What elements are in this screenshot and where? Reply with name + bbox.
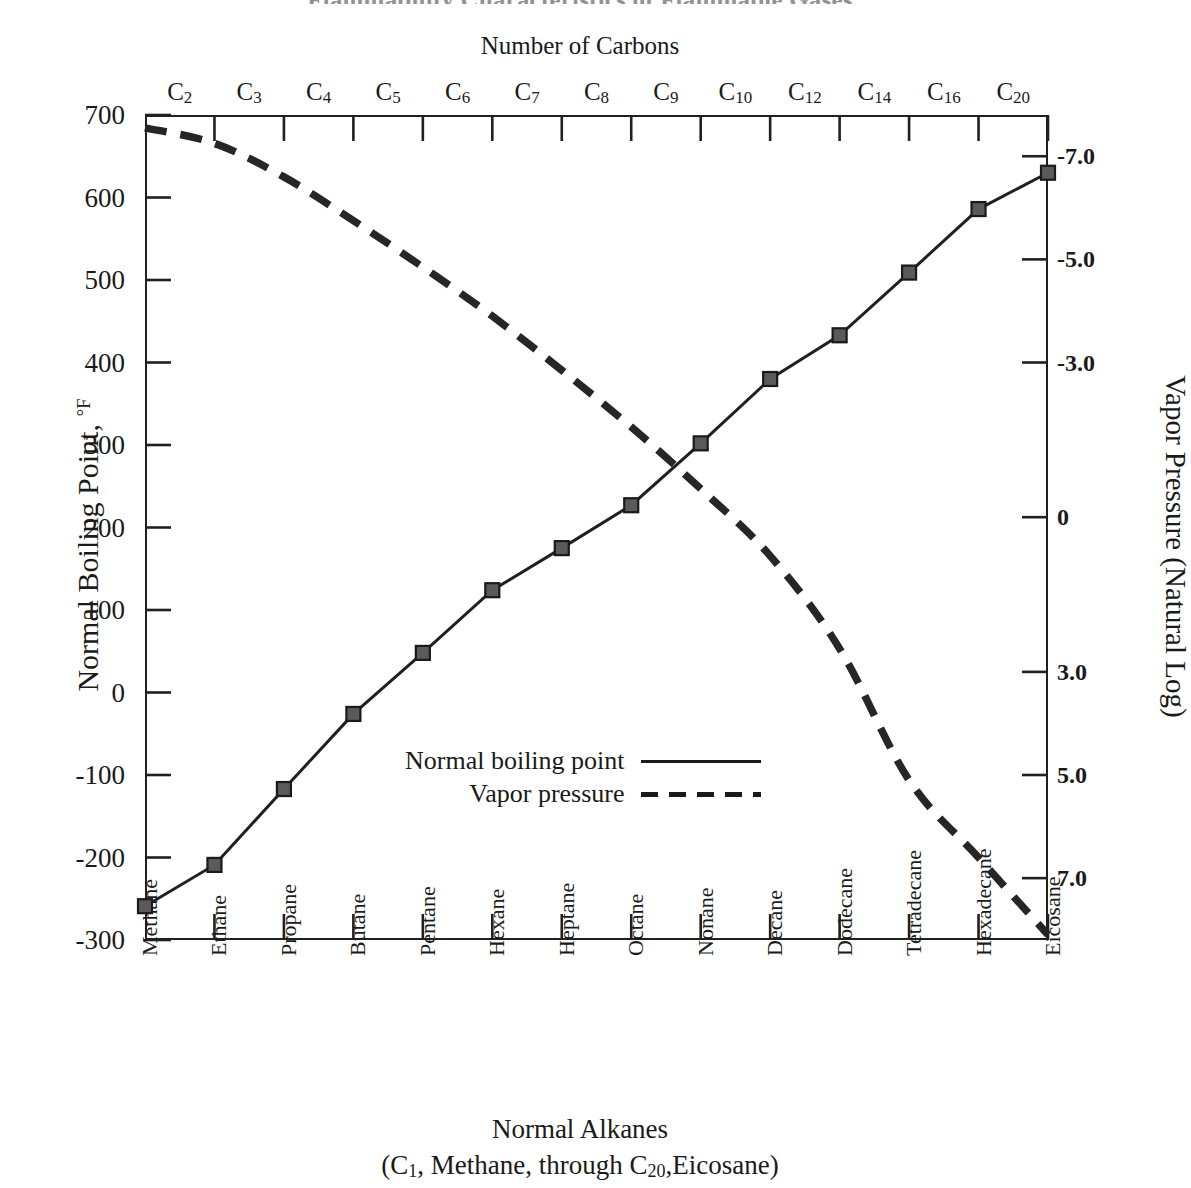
right-axis-tick-label: -5.0 (1057, 246, 1095, 273)
legend-label-vapor-pressure: Vapor pressure (469, 779, 624, 809)
bt-post: ,Eicosane) (666, 1150, 779, 1180)
left-axis-tick-label: 400 (0, 347, 125, 378)
right-axis-tick-label: 5.0 (1057, 762, 1087, 789)
carbon-count-label: C12 (788, 78, 822, 108)
bt-mid: , Methane, through C (417, 1150, 647, 1180)
right-axis-tick-label: 3.0 (1057, 658, 1087, 685)
top-axis-title: Number of Carbons (0, 32, 1160, 60)
alkane-category-label: Octane (623, 894, 649, 956)
alkane-category-label: Ethane (206, 895, 232, 956)
legend-swatch-dashed (641, 787, 761, 801)
right-axis-title: Vapor Pressure (Natural Log) (1159, 297, 1191, 797)
carbon-count-label: C4 (306, 78, 331, 108)
right-axis-tick-label: -3.0 (1057, 349, 1095, 376)
carbon-count-label: C9 (653, 78, 678, 108)
left-axis-tick-label: -200 (0, 842, 125, 873)
carbon-count-label: C5 (376, 78, 401, 108)
alkane-category-label: Methane (137, 879, 163, 956)
right-axis-tick-label: 0 (1057, 504, 1069, 531)
legend-label-boiling-point: Normal boiling point (405, 746, 625, 776)
alkane-category-label: Heptane (554, 883, 580, 956)
bt-sub2: 20 (648, 1161, 666, 1181)
left-axis-tick-label: 600 (0, 182, 125, 213)
figure-title: Flammability Characteristics of Flammabl… (0, 0, 1160, 4)
left-axis-tick-label: 300 (0, 430, 125, 461)
carbon-count-label: C7 (514, 78, 539, 108)
bt-sub1: 1 (408, 1161, 417, 1181)
left-axis-unit: °F (73, 398, 94, 416)
alkane-category-label: Decane (762, 890, 788, 956)
alkane-category-label: Hexadecane (971, 849, 997, 956)
legend-item-boiling-point: Normal boiling point (405, 744, 761, 777)
alkane-category-label: Tetradecane (901, 850, 927, 956)
left-axis-tick-label: 0 (0, 677, 125, 708)
carbon-count-label: C6 (445, 78, 470, 108)
alkane-category-label: Butane (345, 894, 371, 956)
carbon-count-label: C8 (584, 78, 609, 108)
alkane-category-label: Eicosane (1040, 877, 1066, 956)
alkane-category-label: Hexane (484, 889, 510, 956)
carbon-count-label: C14 (858, 78, 892, 108)
left-axis-tick-label: 200 (0, 512, 125, 543)
left-axis-tick-label: -100 (0, 760, 125, 791)
left-axis-tick-label: -300 (0, 925, 125, 956)
right-axis-tick-label: -7.0 (1057, 143, 1095, 170)
carbon-count-label: C16 (927, 78, 961, 108)
left-axis-tick-label: 100 (0, 595, 125, 626)
chart-legend: Normal boiling point Vapor pressure (405, 744, 761, 810)
alkane-category-label: Dodecane (832, 868, 858, 956)
left-axis-tick-label: 500 (0, 265, 125, 296)
bottom-axis-title: Normal Alkanes (C1, Methane, through C20… (0, 1112, 1160, 1183)
bt-pre: (C (381, 1150, 408, 1180)
carbon-count-label: C3 (237, 78, 262, 108)
carbon-count-label: C20 (996, 78, 1030, 108)
alkane-category-label: Propane (276, 884, 302, 956)
alkane-category-label: Nonane (693, 888, 719, 956)
carbon-count-label: C2 (167, 78, 192, 108)
legend-swatch-solid (641, 754, 761, 768)
legend-item-vapor-pressure: Vapor pressure (405, 777, 761, 810)
alkane-category-label: Pentane (415, 886, 441, 956)
left-axis-tick-label: 700 (0, 100, 125, 131)
plot-area (145, 115, 1048, 940)
carbon-count-label: C10 (719, 78, 753, 108)
bottom-axis-title-line2: (C1, Methane, through C20,Eicosane) (0, 1148, 1160, 1184)
bottom-axis-title-line1: Normal Alkanes (0, 1112, 1160, 1148)
